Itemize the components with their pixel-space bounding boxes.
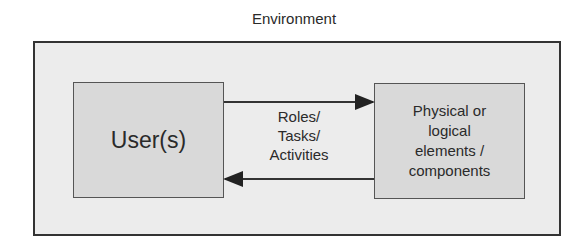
edge-label: Roles/ Tasks/ Activities (240, 107, 358, 164)
